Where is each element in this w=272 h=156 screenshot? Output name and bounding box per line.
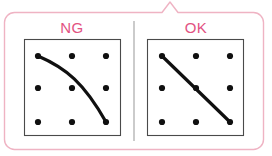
grid-dot — [227, 53, 233, 59]
grid-dot — [103, 85, 109, 91]
grid-dot — [193, 53, 199, 59]
grid-dot — [193, 119, 199, 125]
comparison-diagram: NG OK — [0, 0, 272, 156]
grid-dot — [69, 119, 75, 125]
grid-dot — [69, 53, 75, 59]
grid-dot — [35, 85, 41, 91]
grid-dot — [159, 119, 165, 125]
grid-dot — [103, 53, 109, 59]
grid-dot — [35, 119, 41, 125]
grid-dot — [159, 85, 165, 91]
grid-dot — [227, 85, 233, 91]
panel-label-ng: NG — [60, 19, 83, 36]
figure-canvas: NG OK — [0, 0, 272, 156]
panel-label-ok: OK — [185, 19, 207, 36]
grid-dot — [69, 85, 75, 91]
